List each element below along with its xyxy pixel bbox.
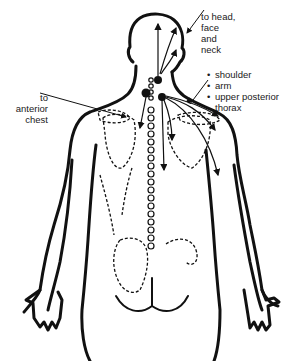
pointer-anterior-chest — [40, 93, 126, 117]
label-line: and — [201, 33, 235, 44]
arrow-down-left — [140, 97, 146, 128]
label-line: face — [201, 22, 235, 33]
label-line: to — [0, 92, 48, 103]
label-shoulder-group: shoulder arm upper posterior thorax — [207, 69, 279, 113]
bullet-item: upper posterior — [207, 91, 279, 102]
left-lower-dash — [100, 175, 114, 235]
torso-right — [206, 150, 220, 361]
left-pelvis — [114, 238, 148, 292]
back-body-diagram — [0, 0, 294, 361]
arrow-down-right-1 — [162, 100, 164, 170]
label-head-face-neck: to head, face and neck — [201, 11, 235, 55]
label-anterior-chest: to anterior chest — [0, 92, 48, 125]
label-line: neck — [201, 44, 235, 55]
bullet-item-continuation: thorax — [207, 102, 279, 113]
bullet-item: arm — [207, 80, 279, 91]
inner-arm-right — [234, 165, 262, 310]
left-hand — [26, 290, 62, 330]
arrow-to-face — [160, 28, 176, 74]
bullet-item: shoulder — [207, 69, 279, 80]
label-line: anterior — [0, 103, 48, 114]
right-pelvis — [166, 239, 197, 264]
label-line: chest — [0, 114, 48, 125]
head-outline — [128, 14, 184, 72]
label-line: to head, — [201, 11, 235, 22]
spine-vertebrae — [148, 78, 154, 249]
left-lumbar-dash — [122, 168, 132, 215]
pointer-shoulder-group — [190, 80, 208, 104]
torso-left — [82, 145, 96, 361]
